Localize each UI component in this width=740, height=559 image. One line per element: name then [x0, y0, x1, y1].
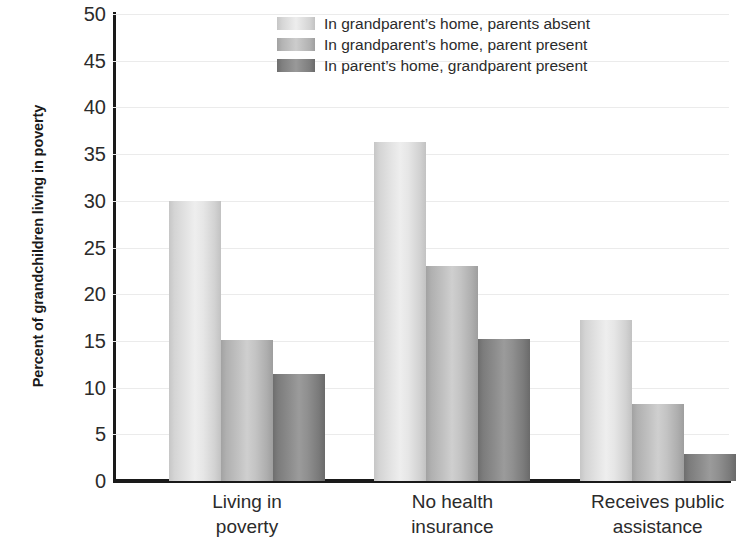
- y-axis-tick-label: 10: [38, 378, 106, 398]
- y-axis-tick-labels: 05101520253035404550: [38, 14, 106, 481]
- x-axis-category-labels: Living inpovertyNo healthinsuranceReceiv…: [113, 489, 731, 555]
- legend-label: In parent’s home, grandparent present: [324, 58, 587, 74]
- y-axis-tick-label: 25: [38, 238, 106, 258]
- bar-group: [169, 14, 325, 481]
- legend-swatch: [277, 17, 315, 30]
- y-axis-tick-label: 45: [38, 51, 106, 71]
- x-axis-category-label: Living inpoverty: [142, 489, 352, 539]
- legend-item: In grandparent’s home, parents absent: [277, 13, 717, 34]
- y-axis-tick-label: 35: [38, 144, 106, 164]
- bar: [478, 339, 530, 481]
- bar-group: [580, 14, 736, 481]
- bar: [221, 340, 273, 481]
- y-axis-tick-label: 50: [38, 4, 106, 24]
- y-axis-tick-label: 30: [38, 191, 106, 211]
- x-axis-label-line: No health: [347, 489, 557, 514]
- y-axis-tick-label: 5: [38, 424, 106, 444]
- legend-swatch: [277, 38, 315, 51]
- y-axis-tick-label: 20: [38, 284, 106, 304]
- x-axis-label-line: poverty: [142, 514, 352, 539]
- x-axis-category-label: No healthinsurance: [347, 489, 557, 539]
- legend-label: In grandparent’s home, parents absent: [324, 16, 590, 32]
- bar: [169, 201, 221, 481]
- y-axis-tick-label: 15: [38, 331, 106, 351]
- x-axis-label-line: assistance: [553, 514, 740, 539]
- x-axis-category-label: Receives publicassistance: [553, 489, 740, 539]
- x-axis-label-line: insurance: [347, 514, 557, 539]
- bar: [374, 142, 426, 481]
- bar: [632, 404, 684, 481]
- plot-area: [113, 14, 729, 481]
- legend-item: In parent’s home, grandparent present: [277, 55, 717, 76]
- bar-groups: [113, 14, 729, 481]
- bar: [426, 266, 478, 481]
- x-axis-label-line: Receives public: [553, 489, 740, 514]
- bar: [684, 454, 736, 481]
- x-axis-label-line: Living in: [142, 489, 352, 514]
- bar-group: [374, 14, 530, 481]
- legend: In grandparent’s home, parents absentIn …: [277, 13, 717, 76]
- y-axis-tick-label: 0: [38, 471, 106, 491]
- y-axis-tick-label: 40: [38, 97, 106, 117]
- legend-label: In grandparent’s home, parent present: [324, 37, 587, 53]
- bar: [273, 374, 325, 481]
- legend-swatch: [277, 59, 315, 72]
- bar: [580, 320, 632, 481]
- legend-item: In grandparent’s home, parent present: [277, 34, 717, 55]
